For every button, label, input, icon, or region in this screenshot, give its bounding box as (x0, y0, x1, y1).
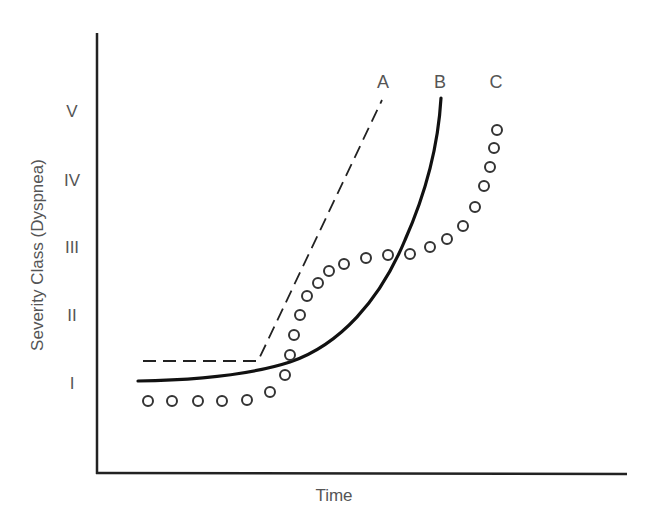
y-tick-label-IV: IV (64, 171, 81, 190)
x-axis-title: Time (315, 486, 352, 505)
y-tick-label-V: V (66, 102, 78, 121)
y-tick-label-I: I (70, 374, 75, 393)
series-c-markers (143, 125, 502, 406)
y-tick-label-III: III (65, 238, 79, 257)
series-c-label: C (490, 72, 503, 92)
series-a-label: A (377, 72, 389, 92)
y-axis-title: Severity Class (Dyspnea) (28, 159, 47, 351)
series-a-line (143, 100, 382, 361)
y-tick-label-II: II (67, 306, 76, 325)
series-b-label: B (434, 72, 446, 92)
chart: V IV III II I Severity Class (Dyspnea) T… (0, 0, 649, 526)
x-axis (96, 473, 627, 474)
